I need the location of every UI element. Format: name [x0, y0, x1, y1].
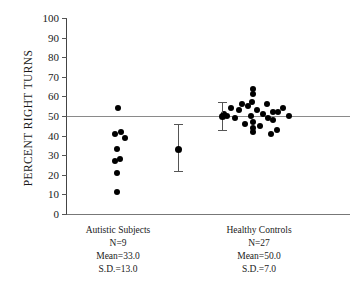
y-tick-mark: [62, 77, 67, 78]
y-tick-label: 10: [48, 188, 59, 200]
data-point: [254, 107, 260, 113]
data-point: [114, 146, 120, 152]
y-tick-label: 40: [48, 130, 59, 142]
data-point: [268, 131, 274, 137]
y-tick-label: 0: [54, 208, 60, 220]
data-point: [286, 113, 292, 119]
data-point: [232, 115, 238, 121]
data-point: [250, 129, 256, 135]
y-tick-mark: [62, 194, 67, 195]
data-point: [228, 105, 234, 111]
y-tick-mark: [62, 18, 67, 19]
data-point: [257, 123, 263, 129]
group-sd-controls: S.D.=7.0: [189, 263, 329, 276]
y-tick-mark: [62, 136, 67, 137]
data-point: [250, 91, 256, 97]
reference-line-50: [66, 116, 350, 117]
mean-marker: [175, 146, 182, 153]
error-bar-cap-upper: [218, 102, 227, 103]
y-tick-mark: [62, 38, 67, 39]
data-point: [242, 121, 248, 127]
y-tick-label: 100: [43, 12, 60, 24]
data-point: [245, 103, 251, 109]
mean-marker: [219, 113, 226, 120]
x-axis-baseline: [66, 214, 350, 215]
error-bar-cap-lower: [174, 171, 183, 172]
y-tick-mark: [62, 155, 67, 156]
y-axis-title: PERCENT RIGHT TURNS: [22, 28, 34, 208]
group-caption-autistic: Autistic Subjects N=9 Mean=33.0 S.D.=13.…: [48, 224, 188, 276]
y-tick-label: 90: [48, 32, 59, 44]
y-tick-mark: [62, 116, 67, 117]
data-point: [112, 131, 118, 137]
y-tick-mark: [62, 57, 67, 58]
data-point: [275, 109, 281, 115]
group-mean-controls: Mean=50.0: [189, 250, 329, 263]
data-point: [114, 189, 120, 195]
plot-area: 1009080706050403020100: [66, 18, 350, 215]
data-point: [115, 105, 121, 111]
data-point: [118, 129, 124, 135]
y-tick-label: 70: [48, 71, 59, 83]
y-tick-label: 20: [48, 169, 59, 181]
group-sd-autistic: S.D.=13.0: [48, 263, 188, 276]
y-tick-label: 30: [48, 149, 59, 161]
y-tick-mark: [62, 214, 67, 215]
data-point: [236, 107, 242, 113]
data-point: [112, 158, 118, 164]
group-n-controls: N=27: [189, 237, 329, 250]
group-mean-autistic: Mean=33.0: [48, 250, 188, 263]
y-tick-label: 60: [48, 90, 59, 102]
y-tick-mark: [62, 175, 67, 176]
data-point: [264, 101, 270, 107]
y-tick-mark: [62, 96, 67, 97]
y-tick-label: 80: [48, 51, 59, 63]
group-name-controls: Healthy Controls: [189, 224, 329, 237]
group-name-autistic: Autistic Subjects: [48, 224, 188, 237]
group-n-autistic: N=9: [48, 237, 188, 250]
error-bar-cap-upper: [174, 124, 183, 125]
scatter-plot-figure: PERCENT RIGHT TURNS 10090807060504030201…: [0, 0, 357, 287]
group-caption-controls: Healthy Controls N=27 Mean=50.0 S.D.=7.0: [189, 224, 329, 276]
data-point: [250, 119, 256, 125]
y-tick-label: 50: [48, 110, 59, 122]
data-point: [114, 170, 120, 176]
data-point: [270, 117, 276, 123]
data-point: [274, 127, 280, 133]
error-bar-cap-lower: [218, 130, 227, 131]
data-point: [122, 135, 128, 141]
